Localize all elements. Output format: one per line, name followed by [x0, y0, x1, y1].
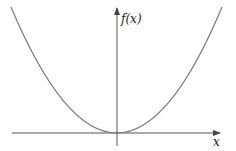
x-axis-label: x	[213, 135, 220, 149]
origin-point	[116, 132, 119, 135]
parabola-plot: f(x) x	[0, 0, 236, 151]
y-axis-label: f(x)	[120, 12, 142, 26]
